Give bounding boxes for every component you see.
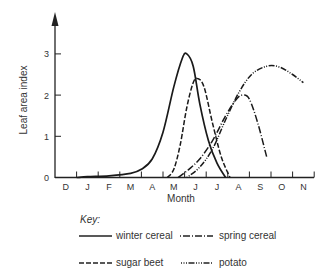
data-series: [77, 53, 304, 177]
y-tick-label: 3: [44, 49, 49, 59]
x-tick-label: S: [257, 182, 263, 192]
legend: Key: winter cereal spring cereal sugar b…: [79, 214, 276, 268]
x-ticks: DJFMAMJJASON: [63, 172, 315, 192]
y-ticks: 0123: [44, 49, 61, 183]
x-tick-label: J: [215, 182, 220, 192]
x-tick-label: M: [170, 182, 178, 192]
y-tick-label: 0: [44, 173, 49, 183]
x-tick-label: J: [193, 182, 198, 192]
x-tick-label: A: [149, 182, 155, 192]
x-tick-label: F: [106, 182, 112, 192]
legend-item-potato: potato: [181, 257, 247, 268]
legend-label: potato: [219, 257, 247, 268]
x-tick-label: D: [63, 182, 70, 192]
legend-label: winter cereal: [115, 230, 173, 241]
legend-label: sugar beet: [116, 257, 163, 268]
x-tick-label: N: [300, 182, 307, 192]
x-tick-label: M: [127, 182, 135, 192]
legend-label: spring cereal: [219, 230, 276, 241]
x-tick-label: O: [278, 182, 285, 192]
legend-item-sugar-beet: sugar beet: [79, 257, 163, 268]
legend-item-spring-cereal: spring cereal: [180, 230, 276, 241]
legend-item-winter-cereal: winter cereal: [79, 230, 173, 241]
y-axis-arrow-icon: [52, 12, 59, 26]
y-tick-label: 2: [44, 91, 49, 101]
series-line-spring-cereal: [178, 95, 267, 177]
x-axis-label: Month: [167, 193, 195, 204]
y-tick-label: 1: [44, 132, 49, 142]
series-line-winter-cereal: [77, 53, 226, 177]
x-tick-label: J: [85, 182, 90, 192]
leaf-area-index-chart: 0123 DJFMAMJJASON Leaf area index Month …: [0, 0, 330, 276]
y-axis-label: Leaf area index: [18, 66, 29, 135]
legend-title: Key:: [80, 214, 100, 225]
x-tick-label: A: [236, 182, 242, 192]
